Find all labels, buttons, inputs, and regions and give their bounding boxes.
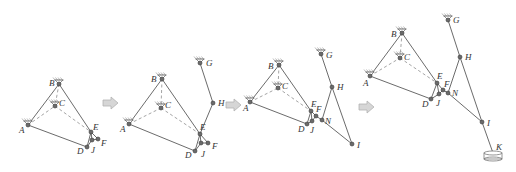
step-arrow-1-icon bbox=[103, 97, 118, 109]
joint-C bbox=[159, 106, 163, 110]
link-AD bbox=[129, 124, 195, 151]
joint-label-H: H bbox=[464, 52, 472, 62]
joint-I bbox=[480, 120, 484, 124]
joint-I bbox=[350, 142, 354, 146]
joint-label-B: B bbox=[268, 61, 274, 71]
joint-N bbox=[446, 91, 450, 95]
joint-label-F: F bbox=[443, 79, 450, 89]
joint-label-D: D bbox=[76, 146, 84, 156]
joint-F bbox=[96, 137, 100, 141]
joint-label-I: I bbox=[356, 140, 361, 150]
joint-label-B: B bbox=[391, 29, 397, 39]
joint-label-D: D bbox=[421, 99, 429, 109]
joint-label-H: H bbox=[217, 98, 225, 108]
stage-3-panel: ABCDEFJNGHI bbox=[242, 48, 361, 151]
joint-H bbox=[211, 101, 215, 105]
hidden-link-AC bbox=[370, 58, 400, 76]
link-AD bbox=[28, 125, 87, 147]
joint-label-D: D bbox=[297, 124, 305, 134]
link-AD bbox=[250, 102, 307, 124]
joint-label-B: B bbox=[151, 74, 157, 84]
joint-label-C: C bbox=[404, 52, 411, 62]
joint-F bbox=[206, 141, 210, 145]
stage-4-panel: ABCDEFJNGHIK bbox=[362, 14, 503, 162]
figure-canvas: ABCDEFJABCDEFJGHABCDEFJNGHIABCDEFJNGHIK bbox=[0, 0, 516, 172]
joint-label-F: F bbox=[211, 141, 218, 151]
joint-label-J: J bbox=[310, 125, 315, 135]
joint-label-N: N bbox=[451, 88, 459, 98]
link-AD bbox=[370, 76, 431, 99]
joint-C bbox=[53, 104, 57, 108]
link-AB bbox=[250, 65, 279, 102]
joint-E bbox=[435, 81, 439, 85]
joint-C bbox=[398, 56, 402, 60]
joint-label-J: J bbox=[436, 98, 441, 108]
joint-label-A: A bbox=[119, 124, 126, 134]
link-GH bbox=[448, 20, 460, 57]
joint-C bbox=[276, 86, 280, 90]
joint-J bbox=[199, 141, 203, 145]
joint-label-I: I bbox=[486, 118, 491, 128]
hidden-link-CE bbox=[278, 88, 311, 111]
step-arrow-2-icon bbox=[226, 99, 241, 111]
linkage-sequence-figure: ABCDEFJABCDEFJGHABCDEFJNGHIABCDEFJNGHIK bbox=[0, 0, 516, 172]
joint-D bbox=[305, 122, 309, 126]
link-GH bbox=[200, 63, 213, 103]
joint-D bbox=[193, 149, 197, 153]
joint-H bbox=[458, 55, 462, 59]
joint-label-A: A bbox=[362, 78, 369, 88]
hidden-link-AC bbox=[129, 108, 161, 124]
joint-J bbox=[310, 119, 314, 123]
link-BE bbox=[59, 84, 91, 132]
joint-A bbox=[248, 100, 252, 104]
joint-label-E: E bbox=[199, 122, 206, 132]
stage-2-panel: ABCDEFJGH bbox=[119, 57, 225, 161]
joint-label-G: G bbox=[453, 15, 460, 25]
joint-label-F: F bbox=[100, 138, 107, 148]
joint-B bbox=[277, 63, 281, 67]
joint-E bbox=[309, 109, 313, 113]
joint-G bbox=[319, 52, 323, 56]
joint-G bbox=[198, 61, 202, 65]
step-arrow-3-icon bbox=[359, 101, 374, 113]
joint-B bbox=[400, 31, 404, 35]
joint-label-E: E bbox=[436, 71, 443, 81]
joint-A bbox=[368, 74, 372, 78]
joint-label-G: G bbox=[206, 58, 213, 68]
joint-B bbox=[57, 82, 61, 86]
joint-label-J: J bbox=[91, 145, 96, 155]
joint-label-F: F bbox=[315, 104, 322, 114]
joint-label-C: C bbox=[282, 81, 289, 91]
joint-J bbox=[90, 138, 94, 142]
joint-label-A: A bbox=[242, 103, 249, 113]
joint-F bbox=[314, 114, 318, 118]
joint-B bbox=[160, 77, 164, 81]
joint-label-D: D bbox=[184, 150, 192, 160]
base-platform-icon bbox=[484, 151, 502, 161]
joint-A bbox=[127, 122, 131, 126]
hidden-link-CE bbox=[161, 108, 200, 134]
joint-label-K: K bbox=[495, 142, 503, 152]
hidden-link-AC bbox=[250, 88, 278, 102]
hidden-link-CE bbox=[55, 106, 91, 132]
joint-G bbox=[446, 18, 450, 22]
joint-label-B: B bbox=[49, 78, 55, 88]
joint-N bbox=[320, 118, 324, 122]
joint-label-C: C bbox=[59, 98, 66, 108]
joint-label-J: J bbox=[201, 149, 206, 159]
joint-A bbox=[26, 123, 30, 127]
joint-label-E: E bbox=[92, 122, 99, 132]
joint-D bbox=[429, 97, 433, 101]
joint-label-H: H bbox=[336, 82, 344, 92]
joint-E bbox=[198, 132, 202, 136]
joint-D bbox=[85, 145, 89, 149]
hidden-link-AC bbox=[28, 106, 55, 125]
link-AB bbox=[129, 79, 162, 124]
joint-label-N: N bbox=[324, 116, 332, 126]
joint-H bbox=[330, 85, 334, 89]
stage-1-panel: ABCDEFJ bbox=[18, 78, 107, 157]
joint-label-C: C bbox=[165, 100, 172, 110]
joint-J bbox=[437, 92, 441, 96]
joint-label-G: G bbox=[326, 50, 333, 60]
joint-label-A: A bbox=[18, 125, 25, 135]
